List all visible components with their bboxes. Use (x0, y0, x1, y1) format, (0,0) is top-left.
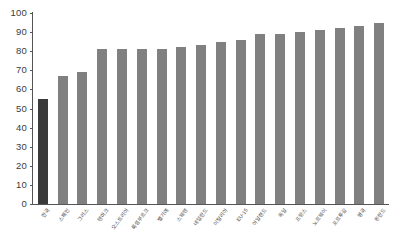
bar (315, 30, 325, 204)
bar (97, 49, 107, 204)
x-axis-label: 영국 (356, 207, 367, 219)
x-axis-label: 덴마크 (96, 207, 110, 223)
y-axis-tick: 100 (0, 13, 33, 14)
bar-slot (369, 13, 389, 204)
bar-slot (349, 13, 369, 204)
x-axis-label: 룩셈부르크 (129, 207, 149, 230)
y-axis-tick-label: 100 (11, 7, 27, 18)
y-axis-tick: 70 (0, 70, 33, 71)
bar-slot (330, 13, 350, 204)
bar (137, 49, 147, 204)
bar (117, 49, 127, 204)
bar (374, 23, 384, 204)
bar-slot (231, 13, 251, 204)
y-axis-tick-label: 50 (16, 103, 27, 114)
y-axis-tick: 10 (0, 185, 33, 186)
bar-chart: 1009080706050403020100 한국스페인그리스덴마크오스트리아룩… (0, 0, 395, 250)
bar (176, 47, 186, 204)
bar-slot (33, 13, 53, 204)
bar (275, 34, 285, 204)
x-axis-label: 오스트리아 (110, 207, 130, 230)
y-axis-tick: 90 (0, 32, 33, 33)
x-axis-label: 이탈리아 (212, 207, 229, 226)
x-axis-label: 독일 (277, 207, 288, 219)
y-axis-tick-label: 40 (16, 122, 27, 133)
bar (196, 45, 206, 204)
bar-slot (191, 13, 211, 204)
y-axis-tick-label: 30 (16, 141, 27, 152)
x-axis-label: 스웨덴 (175, 207, 189, 223)
y-axis-tick-label: 70 (16, 64, 27, 75)
bar-slot (290, 13, 310, 204)
x-axis-label: 핀란드 (373, 207, 387, 223)
x-axis-label: 아일랜드 (251, 207, 268, 226)
x-axis-label: 벨기에 (155, 207, 169, 223)
bar-slot (53, 13, 73, 204)
bar-slot (270, 13, 290, 204)
y-axis-tick-mark (30, 204, 33, 205)
bar-slot (211, 13, 231, 204)
x-axis-label: 그리스 (76, 207, 90, 223)
y-axis-tick: 20 (0, 166, 33, 167)
bar (354, 26, 364, 204)
x-axis-label: 한국 (40, 207, 51, 219)
y-axis-tick: 30 (0, 147, 33, 148)
bar (77, 72, 87, 204)
bar-slot (310, 13, 330, 204)
y-axis-tick: 60 (0, 89, 33, 90)
x-axis-line (32, 204, 389, 205)
y-axis-tick-label: 0 (22, 198, 27, 209)
bar-slot (92, 13, 112, 204)
bar-slot (112, 13, 132, 204)
plot-area (33, 13, 389, 204)
bar (157, 49, 167, 204)
bar-slot (73, 13, 93, 204)
bar (38, 99, 48, 204)
bar (335, 28, 345, 204)
bar (255, 34, 265, 204)
bar-slot (152, 13, 172, 204)
y-axis-tick: 40 (0, 128, 33, 129)
y-axis-tick: 50 (0, 109, 33, 110)
y-axis-tick-label: 80 (16, 45, 27, 56)
bar-slot (171, 13, 191, 204)
bar (58, 76, 68, 204)
x-axis-label: 스페인 (56, 207, 70, 223)
y-axis-tick: 80 (0, 51, 33, 52)
y-axis-tick-label: 20 (16, 160, 27, 171)
x-axis-label: EU-15 (235, 207, 249, 222)
bar-slot (132, 13, 152, 204)
y-axis-tick-label: 10 (16, 179, 27, 190)
x-axis-label: 프랑스 (294, 207, 308, 223)
y-axis-tick: 0 (0, 204, 33, 205)
bar (216, 42, 226, 204)
bar (295, 32, 305, 204)
y-axis-tick-label: 60 (16, 83, 27, 94)
y-axis-tick-label: 90 (16, 26, 27, 37)
x-axis-label: 노르웨이 (310, 207, 327, 226)
x-axis-label: 포르투갈 (330, 207, 347, 226)
bar (236, 40, 246, 204)
bar-slot (251, 13, 271, 204)
x-axis-label: 네덜란드 (192, 207, 209, 226)
